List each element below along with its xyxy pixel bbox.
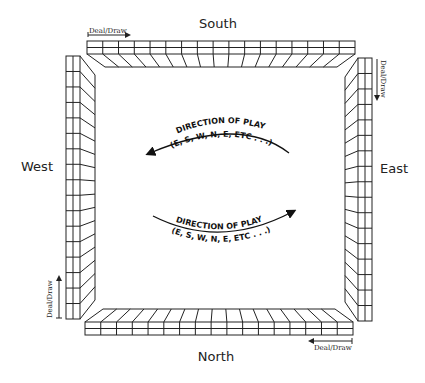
direction-of-play-lower: DIRECTION OF PLAY (E, S, W, N, E, ETC . … [153, 212, 292, 244]
deal-draw-west: Deal/Draw [46, 278, 62, 318]
svg-text:Deal/Draw: Deal/Draw [314, 344, 352, 352]
svg-text:Deal/Draw: Deal/Draw [46, 280, 54, 318]
deal-draw-east: Deal/Draw [377, 59, 387, 98]
svg-text:Deal/Draw: Deal/Draw [379, 60, 387, 98]
wall-east [345, 58, 372, 321]
wall-west [66, 56, 95, 319]
seat-label-south: South [199, 16, 237, 31]
direction-of-play-upper: DIRECTION OF PLAY (E, S, W, N, E, ETC . … [150, 116, 289, 153]
deal-draw-north: Deal/Draw [311, 338, 352, 352]
seat-label-west: West [21, 159, 53, 174]
deal-draw-south: Deal/Draw [88, 27, 128, 37]
svg-text:Deal/Draw: Deal/Draw [89, 27, 127, 35]
seat-label-east: East [380, 161, 408, 176]
wall-south [87, 41, 355, 67]
seat-label-north: North [198, 349, 234, 364]
wall-north [85, 309, 353, 335]
mahjong-table-diagram: South West East North Deal/Draw Deal/Dra… [0, 0, 425, 383]
